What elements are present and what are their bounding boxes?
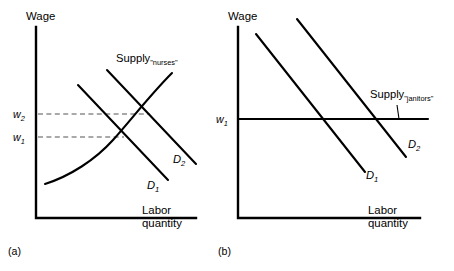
panel-a-d2-label: D2 [173,153,186,168]
panel-a-demand-curve-d1 [78,85,168,180]
panel-a-wage-label-w1: w1 [13,131,25,146]
panel-a-x-axis-label-line1: Labor [142,204,171,216]
panel-b-caption: (b) [218,245,231,257]
panel-a-d1-label: D1 [147,179,159,194]
panel-b-supply-label: Supply"janitors" [370,88,434,103]
panel-b-demand-curve-d1 [256,34,365,172]
panel-b-x-axis-label-line1: Labor [368,204,397,216]
panel-a-caption: (a) [8,245,21,257]
panel-a-wage-label-w2: w2 [13,108,25,123]
figure-root: Wage Labor quantity w2 w1 Supply"nurse [0,0,454,271]
panel-a-x-axis-label-line2: quantity [142,217,182,229]
panel-b-x-axis-label-line2: quantity [368,217,408,229]
panel-a: Wage Labor quantity w2 w1 Supply"nurse [8,10,196,257]
panel-b-axes [238,27,420,218]
panel-a-demand-curve-d2 [107,70,196,164]
panel-b-d2-label: D2 [408,138,421,153]
panel-b-d1-label: D1 [366,169,378,184]
panel-a-y-axis-label: Wage [26,10,55,22]
panel-a-supply-label: Supply"nurses" [116,52,178,67]
panel-b-supply-leader-line [397,105,399,119]
panel-a-supply-curve [45,73,172,184]
panel-b-y-axis-label: Wage [228,10,257,22]
panel-b-wage-label-w1: w1 [216,113,228,128]
economics-diagram: Wage Labor quantity w2 w1 Supply"nurse [0,0,454,271]
panel-b: Wage Labor quantity w1 Supply"janitors" [216,10,434,257]
